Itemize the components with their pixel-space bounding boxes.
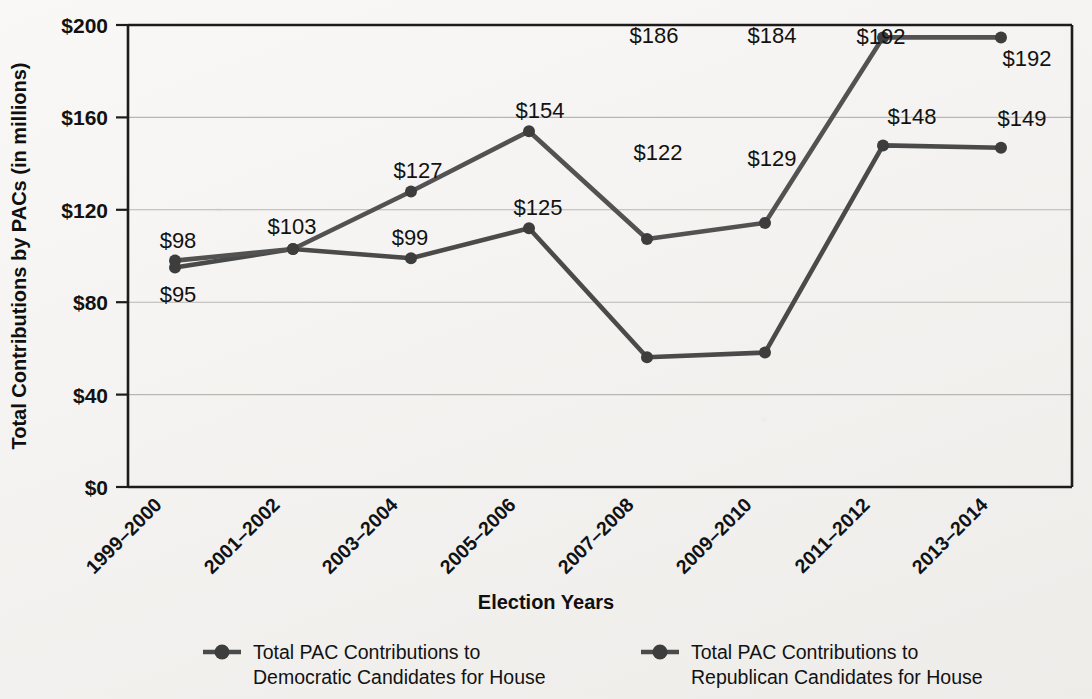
series-line-democratic: [175, 145, 1001, 357]
x-axis-title: Election Years: [478, 591, 614, 613]
plot-frame: [128, 25, 1072, 487]
data-label: $184: [748, 23, 797, 48]
data-point: [287, 243, 299, 255]
x-tick-label: 2001–2002: [199, 493, 284, 578]
data-label: $154: [516, 98, 565, 123]
horizontal-gridlines: [128, 117, 1072, 394]
data-label: $99: [392, 225, 429, 250]
legend-label-line2: Democratic Candidates for House: [253, 666, 546, 688]
legend-dot-marker-icon: [215, 645, 230, 660]
x-tick-label: 2003–2004: [317, 493, 402, 578]
data-point: [995, 31, 1007, 43]
data-label: $148: [888, 104, 937, 129]
x-tick-label: 2005–2006: [435, 493, 520, 578]
legend-item-democratic[interactable]: Total PAC Contributions to Democratic Ca…: [203, 641, 546, 688]
data-labels-republican: $98 $103 $127 $154 $122 $129 $192 $192: [160, 24, 1052, 253]
legend-label-line1: Total PAC Contributions to: [253, 641, 480, 663]
y-axis-title: Total Contributions by PACs (in millions…: [8, 62, 30, 449]
data-labels-democratic: $95 $99 $125 $186 $184 $148 $149: [160, 23, 1047, 307]
data-label: $125: [514, 195, 563, 220]
data-point: [405, 186, 417, 198]
data-label: $98: [160, 228, 197, 253]
y-axis-ticks: [116, 25, 128, 487]
data-point: [641, 351, 653, 363]
y-tick-label-40: $40: [73, 384, 108, 407]
data-point: [641, 233, 653, 245]
legend-label-line2: Republican Candidates for House: [691, 666, 983, 688]
y-tick-label-200: $200: [61, 14, 108, 37]
x-tick-label: 1999–2000: [81, 493, 166, 578]
chart-legend: Total PAC Contributions to Democratic Ca…: [203, 641, 983, 688]
x-tick-label: 2009–2010: [671, 493, 756, 578]
y-tick-label-80: $80: [73, 291, 108, 314]
legend-dot-marker-icon: [653, 645, 668, 660]
data-point: [405, 252, 417, 264]
data-label: $192: [857, 24, 906, 49]
data-point: [759, 217, 771, 229]
y-tick-label-160: $160: [61, 106, 108, 129]
x-tick-label: 2013–2014: [907, 493, 992, 578]
data-point: [523, 222, 535, 234]
data-point: [995, 142, 1007, 154]
data-point: [759, 347, 771, 359]
pac-contributions-line-chart: Total Contributions by PACs (in millions…: [0, 0, 1092, 699]
data-label: $103: [268, 214, 317, 239]
x-tick-label: 2011–2012: [790, 493, 874, 577]
data-point: [523, 125, 535, 137]
data-label: $127: [394, 158, 443, 183]
x-tick-label: 2007–2008: [553, 493, 638, 578]
legend-item-republican[interactable]: Total PAC Contributions to Republican Ca…: [641, 641, 983, 688]
data-point: [877, 139, 889, 151]
axis-lines: [128, 25, 1072, 487]
data-point: [169, 255, 181, 267]
data-label: $122: [634, 140, 683, 165]
data-label: $129: [748, 146, 797, 171]
data-label: $149: [998, 106, 1047, 131]
data-label: $192: [1003, 46, 1052, 71]
y-axis-tick-labels: $200 $160 $120 $80 $40 $0: [61, 14, 108, 499]
data-label: $186: [630, 23, 679, 48]
y-tick-label-120: $120: [61, 199, 108, 222]
x-axis-tick-labels: 1999–2000 2001–2002 2003–2004 2005–2006 …: [81, 493, 992, 578]
y-tick-label-0: $0: [85, 476, 108, 499]
data-label: $95: [160, 282, 197, 307]
legend-label-line1: Total PAC Contributions to: [691, 641, 918, 663]
chart-svg-canvas: Total Contributions by PACs (in millions…: [0, 0, 1092, 699]
